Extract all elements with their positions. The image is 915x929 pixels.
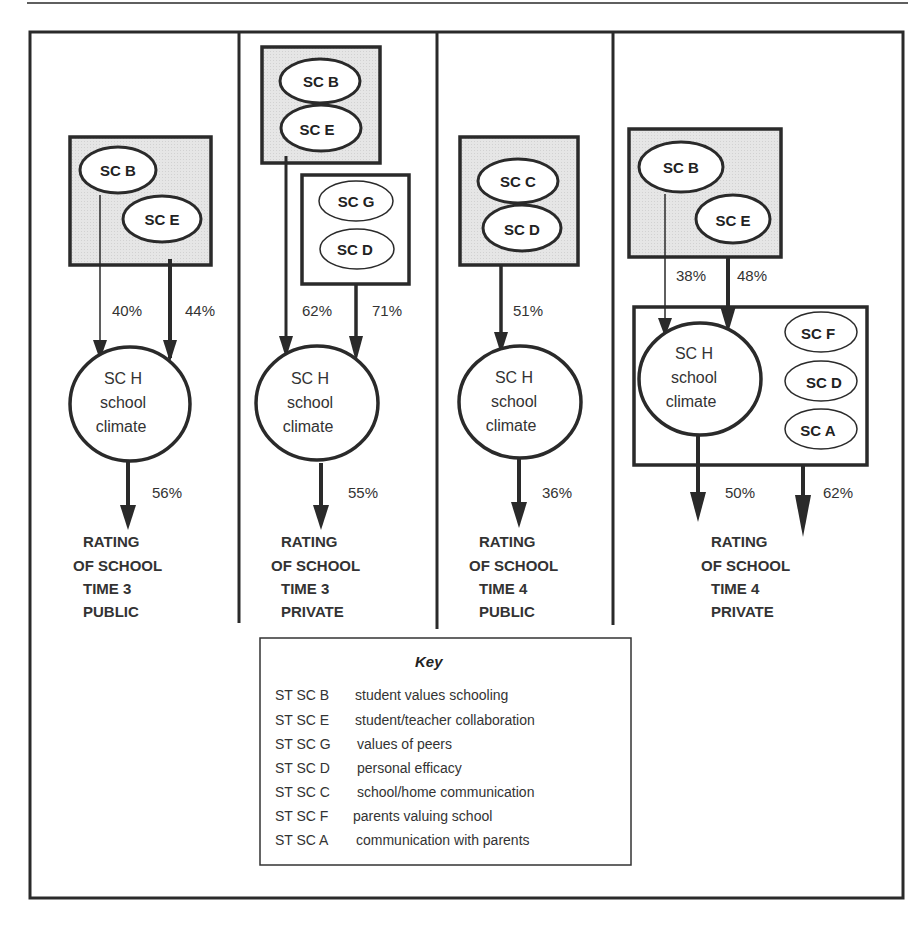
key-row: ST SC G values of peers [275, 736, 452, 752]
path-coefficient: 44% [185, 302, 215, 319]
svg-text:ST SC C: ST SC C [275, 784, 330, 800]
svg-text:ST SC A: ST SC A [275, 832, 329, 848]
panel-time4-private: SC B SC E 38% 48% SC H school climate SC… [629, 129, 867, 620]
node-sc-c[interactable]: SC C [478, 159, 558, 203]
svg-text:OF SCHOOL: OF SCHOOL [271, 557, 360, 574]
mediator-sc-h[interactable]: SC H school climate [639, 323, 761, 435]
mediator-label: school [287, 394, 333, 411]
svg-text:ST SC F: ST SC F [275, 808, 328, 824]
svg-text:ST SC D: ST SC D [275, 760, 330, 776]
path-coefficient: 71% [372, 302, 402, 319]
node-label: SC F [801, 325, 835, 342]
path-coefficient: 62% [823, 484, 853, 501]
svg-text:ST SC E: ST SC E [275, 712, 329, 728]
panel-time3-private: SC B SC E SC G SC D 62% 71% SC H school … [256, 47, 409, 620]
mediator-label: school [100, 394, 146, 411]
svg-text:ST SC G: ST SC G [275, 736, 331, 752]
mediator-label: climate [96, 418, 147, 435]
outcome-label: RATING OF SCHOOL TIME 3 PUBLIC [73, 533, 162, 620]
key-row: ST SC B student values schooling [275, 687, 508, 703]
svg-text:RATING: RATING [281, 533, 337, 550]
node-sc-d[interactable]: SC D [320, 229, 394, 269]
svg-text:RATING: RATING [711, 533, 767, 550]
svg-text:student values schooling: student values schooling [355, 687, 508, 703]
path-coefficient: 51% [513, 302, 543, 319]
svg-text:OF SCHOOL: OF SCHOOL [73, 557, 162, 574]
node-sc-g[interactable]: SC G [319, 181, 393, 221]
svg-text:TIME 4: TIME 4 [711, 580, 760, 597]
node-sc-e[interactable]: SC E [696, 195, 770, 243]
outcome-label: RATING OF SCHOOL TIME 4 PUBLIC [469, 533, 558, 620]
path-coefficient: 38% [676, 267, 706, 284]
svg-text:personal efficacy: personal efficacy [357, 760, 462, 776]
svg-text:values of peers: values of peers [357, 736, 452, 752]
key-row: ST SC A communication with parents [275, 832, 530, 848]
svg-text:TIME 3: TIME 3 [281, 580, 329, 597]
mediator-code: SC H [495, 369, 533, 386]
svg-text:PRIVATE: PRIVATE [281, 603, 344, 620]
path-coefficient: 56% [152, 484, 182, 501]
arrowhead-icon [511, 502, 527, 528]
mediator-label: climate [486, 417, 537, 434]
node-label: SC E [144, 211, 179, 228]
svg-text:TIME 3: TIME 3 [83, 580, 131, 597]
svg-text:TIME 4: TIME 4 [479, 580, 528, 597]
node-sc-b[interactable]: SC B [639, 142, 723, 192]
outcome-label: RATING OF SCHOOL TIME 3 PRIVATE [271, 533, 360, 620]
node-label: SC G [338, 193, 375, 210]
node-label: SC B [303, 73, 339, 90]
node-sc-e[interactable]: SC E [123, 196, 201, 242]
mediator-sc-h[interactable]: SC H school climate [256, 346, 378, 460]
svg-text:PRIVATE: PRIVATE [711, 603, 774, 620]
mediator-code: SC H [104, 370, 142, 387]
arrowhead-icon [120, 505, 136, 530]
node-sc-d[interactable]: SC D [483, 205, 561, 251]
svg-text:PUBLIC: PUBLIC [479, 603, 535, 620]
panel-time3-public: SC B SC E 40% 44% SC H school climate 56… [70, 137, 215, 620]
node-sc-a[interactable]: SC A [785, 409, 857, 449]
node-sc-b[interactable]: SC B [280, 59, 360, 103]
node-label: SC D [337, 241, 373, 258]
key-row: ST SC C school/home communication [275, 784, 534, 800]
panel-time4-public: SC C SC D 51% SC H school climate 36% RA… [459, 137, 581, 620]
svg-text:communication with parents: communication with parents [356, 832, 530, 848]
svg-text:parents valuing school: parents valuing school [353, 808, 492, 824]
path-coefficient: 48% [737, 267, 767, 284]
node-label: SC B [100, 162, 136, 179]
mediator-sc-h[interactable]: SC H school climate [459, 346, 581, 458]
key-row: ST SC D personal efficacy [275, 760, 462, 776]
path-coefficient: 36% [542, 484, 572, 501]
mediator-code: SC H [291, 370, 329, 387]
svg-text:RATING: RATING [479, 533, 535, 550]
node-label: SC D [806, 374, 842, 391]
path-coefficient: 50% [725, 484, 755, 501]
node-label: SC B [663, 159, 699, 176]
mediator-label: school [491, 393, 537, 410]
svg-text:student/teacher collaboration: student/teacher collaboration [355, 712, 535, 728]
arrowhead-icon [690, 492, 706, 522]
path-coefficient: 55% [348, 484, 378, 501]
legend-key: Key ST SC B student values schooling ST … [260, 638, 631, 865]
svg-text:OF SCHOOL: OF SCHOOL [701, 557, 790, 574]
outcome-label: RATING OF SCHOOL TIME 4 PRIVATE [701, 533, 790, 620]
mediator-sc-h[interactable]: SC H school climate [70, 347, 190, 461]
node-label: SC E [715, 212, 750, 229]
node-sc-d[interactable]: SC D [785, 361, 857, 401]
node-sc-f[interactable]: SC F [785, 312, 857, 352]
path-diagram: SC B SC E 40% 44% SC H school climate 56… [0, 0, 915, 929]
node-label: SC C [500, 173, 536, 190]
svg-text:RATING: RATING [83, 533, 139, 550]
node-label: SC A [800, 422, 835, 439]
node-sc-e[interactable]: SC E [281, 105, 361, 151]
arrowhead-icon [795, 495, 811, 537]
mediator-label: climate [666, 393, 717, 410]
node-label: SC E [299, 121, 334, 138]
mediator-label: climate [283, 418, 334, 435]
path-coefficient: 62% [302, 302, 332, 319]
svg-text:OF SCHOOL: OF SCHOOL [469, 557, 558, 574]
arrowhead-icon [313, 505, 329, 530]
node-sc-b[interactable]: SC B [80, 147, 156, 193]
svg-text:school/home communication: school/home communication [357, 784, 534, 800]
node-label: SC D [504, 221, 540, 238]
svg-text:ST SC B: ST SC B [275, 687, 329, 703]
